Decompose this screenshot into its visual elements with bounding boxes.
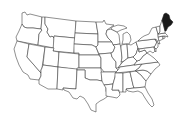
state-washington [22,12,42,29]
state-florida [126,87,154,107]
state-rhode-island [163,36,165,39]
state-arizona [39,65,58,89]
state-kansas [79,55,101,68]
state-montana [45,17,76,38]
state-north-dakota [75,21,98,34]
us-states-map [0,0,184,117]
state-new-mexico [57,67,77,90]
state-wyoming [53,36,75,53]
states-layer [14,12,173,112]
